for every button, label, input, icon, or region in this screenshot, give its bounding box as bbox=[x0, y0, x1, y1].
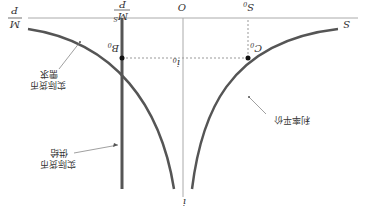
diagram-stage: S i O S0 i0 B0 C0 M P MS P 实际货币 需求 实际货币 … bbox=[0, 0, 366, 217]
svg-text:实际货币: 实际货币 bbox=[40, 159, 76, 170]
svg-text:需求: 需求 bbox=[40, 69, 58, 80]
s0-label: S0 bbox=[243, 0, 254, 13]
interest-parity-annotation: 利率平价 bbox=[248, 96, 310, 126]
point-c0 bbox=[246, 56, 251, 61]
svg-text:P: P bbox=[11, 5, 19, 16]
origin-label: O bbox=[178, 2, 186, 13]
m-over-p-label: M P bbox=[8, 5, 22, 30]
point-b0 bbox=[120, 56, 125, 61]
money-supply-annotation: 实际货币 供给 bbox=[40, 143, 118, 170]
vertical-axis-label: i bbox=[183, 197, 186, 208]
svg-text:MS: MS bbox=[113, 11, 129, 23]
svg-text:实际货币: 实际货币 bbox=[30, 80, 66, 91]
svg-text:利率平价: 利率平价 bbox=[274, 115, 310, 126]
svg-text:M: M bbox=[9, 19, 21, 30]
c0-label: C0 bbox=[250, 41, 262, 54]
i0-label: i0 bbox=[173, 56, 180, 69]
ms-over-p-label: MS P bbox=[113, 0, 130, 23]
b0-label: B0 bbox=[108, 41, 121, 54]
svg-text:P: P bbox=[119, 0, 127, 10]
money-market-interest-parity-diagram: S i O S0 i0 B0 C0 M P MS P 实际货币 需求 实际货币 … bbox=[0, 0, 366, 217]
interest-parity-curve bbox=[192, 29, 338, 189]
money-demand-annotation: 实际货币 需求 bbox=[30, 41, 81, 91]
svg-text:供给: 供给 bbox=[50, 148, 68, 159]
horizontal-axis-label: S bbox=[343, 19, 350, 30]
